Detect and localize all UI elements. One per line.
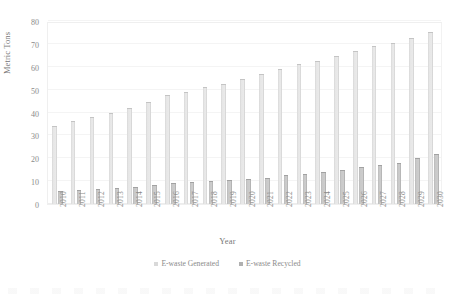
bars-layer (48, 23, 441, 204)
bar (165, 95, 170, 204)
bar-group (349, 23, 368, 204)
bar (315, 61, 320, 204)
legend-item[interactable]: E-waste Generated (154, 259, 219, 268)
x-axis-tick-label: 2028 (398, 191, 407, 207)
x-axis-tick-label: 2027 (379, 191, 388, 207)
bar (221, 84, 226, 204)
bar (127, 108, 132, 204)
bar-group (387, 23, 406, 204)
x-axis-ticklabels: 2010201120122013201420152016201720182019… (0, 206, 455, 234)
x-axis-tick-label: 2030 (436, 191, 445, 207)
x-axis-tick-label: 2013 (116, 191, 125, 207)
bar-group (67, 23, 86, 204)
x-axis-tick-label: 2029 (417, 191, 426, 207)
legend-label: E-waste Recycled (246, 259, 301, 268)
x-axis-tick-label: 2025 (342, 191, 351, 207)
bar (109, 113, 114, 205)
legend-swatch-icon (154, 262, 158, 266)
x-axis-tick-label: 2017 (191, 191, 200, 207)
bar-group (161, 23, 180, 204)
bar (146, 102, 151, 204)
bar-group (86, 23, 105, 204)
x-axis-tick-label: 2024 (323, 191, 332, 207)
legend-item[interactable]: E-waste Recycled (239, 259, 301, 268)
x-axis-tick-label: 2011 (78, 191, 87, 207)
y-axis-tick-label: 80 (1, 18, 39, 27)
x-axis-tick-label: 2023 (304, 191, 313, 207)
x-axis-tick-label: 2010 (59, 191, 68, 207)
bar-group (255, 23, 274, 204)
bar (353, 51, 358, 204)
bar-group (274, 23, 293, 204)
bar (259, 74, 264, 204)
bar (297, 64, 302, 204)
x-axis-tick-label: 2018 (210, 191, 219, 207)
bar (409, 38, 414, 204)
bar (391, 43, 396, 204)
x-axis-tick-label: 2015 (153, 191, 162, 207)
bar-group (198, 23, 217, 204)
bar-group (330, 23, 349, 204)
bar-group (217, 23, 236, 204)
bar (428, 32, 433, 204)
x-axis-tick-label: 2012 (97, 191, 106, 207)
bar-group (123, 23, 142, 204)
chart-figure: Metric Tons 01020304050607080 2010201120… (0, 0, 455, 303)
y-axis-tick-label: 40 (1, 109, 39, 118)
x-axis-tick-label: 2021 (266, 191, 275, 207)
bar-group (104, 23, 123, 204)
x-axis-tick-label: 2022 (285, 191, 294, 207)
bar-group (293, 23, 312, 204)
x-axis-tick-label: 2014 (135, 191, 144, 207)
x-axis-tick-label: 2019 (229, 191, 238, 207)
bar-group (368, 23, 387, 204)
y-axis-ticklabels: 01020304050607080 (0, 22, 44, 205)
y-axis-tick-label: 50 (1, 86, 39, 95)
bar-group (236, 23, 255, 204)
x-axis-tick-label: 2020 (248, 191, 257, 207)
legend-label: E-waste Generated (161, 259, 219, 268)
x-axis-title: Year (0, 236, 455, 246)
bar (372, 46, 377, 204)
x-axis-tick-label: 2026 (360, 191, 369, 207)
y-axis-tick-label: 10 (1, 178, 39, 187)
bar (334, 56, 339, 204)
y-axis-tick-label: 30 (1, 132, 39, 141)
plot-area (47, 22, 442, 205)
bar (52, 126, 57, 204)
bar (240, 79, 245, 204)
bar-group (48, 23, 67, 204)
bar (278, 69, 283, 204)
bar (203, 87, 208, 204)
y-axis-tick-label: 20 (1, 155, 39, 164)
bar-group (405, 23, 424, 204)
gridline (48, 20, 441, 21)
x-axis-tick-label: 2016 (172, 191, 181, 207)
bar (184, 92, 189, 204)
bar-group (142, 23, 161, 204)
bar-group (311, 23, 330, 204)
bar (90, 117, 95, 204)
page-artifact (8, 288, 438, 294)
bar-group (424, 23, 443, 204)
chart-legend: E-waste GeneratedE-waste Recycled (0, 259, 455, 268)
bar-group (180, 23, 199, 204)
y-axis-tick-label: 60 (1, 63, 39, 72)
legend-swatch-icon (239, 262, 243, 266)
bar (71, 121, 76, 204)
y-axis-tick-label: 70 (1, 40, 39, 49)
